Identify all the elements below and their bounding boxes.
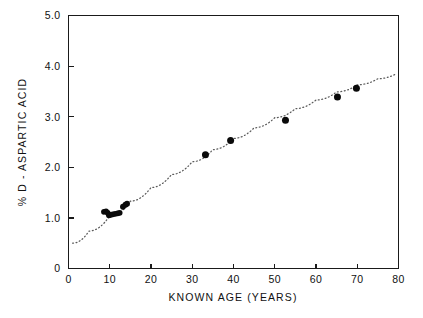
scatter-plot-svg: 01020304050607080 01.02.03.04.05.0 KNOWN…: [0, 0, 423, 318]
x-axis-title: KNOWN AGE (YEARS): [169, 291, 298, 303]
y-axis-tick-marks: [69, 16, 74, 269]
y-tick-label: 4.0: [45, 60, 61, 72]
data-point: [282, 117, 289, 124]
x-tick-label: 40: [227, 273, 239, 285]
x-tick-label: 60: [310, 273, 322, 285]
y-tick-label: 5.0: [45, 9, 61, 21]
data-point: [353, 85, 360, 92]
data-point: [202, 151, 209, 158]
y-tick-label: 2.0: [45, 161, 61, 173]
y-tick-label: 1.0: [45, 212, 61, 224]
y-axis-tick-labels: 01.02.03.04.05.0: [45, 9, 61, 274]
y-tick-label: 3.0: [45, 111, 61, 123]
x-tick-label: 20: [145, 273, 157, 285]
x-axis-tick-marks: [69, 264, 399, 269]
trend-curve: [73, 74, 397, 244]
y-axis-title: % D - ASPARTIC ACID: [16, 78, 28, 206]
data-point: [227, 137, 234, 144]
chart-figure: 01020304050607080 01.02.03.04.05.0 KNOWN…: [0, 0, 423, 318]
y-tick-label: 0: [54, 262, 60, 274]
x-tick-label: 10: [104, 273, 116, 285]
x-tick-label: 30: [186, 273, 198, 285]
x-axis-tick-labels: 01020304050607080: [65, 273, 404, 285]
x-tick-label: 80: [392, 273, 404, 285]
x-tick-label: 70: [351, 273, 363, 285]
data-point: [117, 210, 123, 216]
x-tick-label: 50: [269, 273, 281, 285]
data-point: [334, 93, 341, 100]
data-point: [124, 201, 130, 207]
x-tick-label: 0: [65, 273, 71, 285]
